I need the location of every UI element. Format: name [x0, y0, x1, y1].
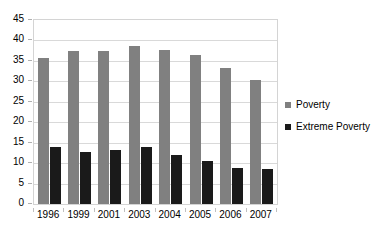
- bar-poverty-2005: [190, 55, 201, 204]
- y-tick-mark: [28, 39, 32, 40]
- y-tick-mark: [28, 101, 32, 102]
- y-tick-label: 45: [13, 14, 24, 24]
- x-tick-mark: [33, 208, 34, 212]
- y-tick-label: 25: [13, 96, 24, 106]
- y-tick-label: 15: [13, 137, 24, 147]
- y-tick-label: 0: [18, 198, 24, 208]
- plot-area: [33, 19, 278, 205]
- x-tick-mark: [185, 208, 186, 212]
- x-tick-mark: [63, 208, 64, 212]
- legend-swatch-icon: [285, 124, 291, 130]
- y-tick-mark: [28, 183, 32, 184]
- legend-swatch-icon: [285, 102, 291, 108]
- bar-extreme-poverty-2006: [232, 168, 243, 204]
- bar-poverty-1996: [38, 58, 49, 204]
- x-tick-label: 2005: [189, 210, 211, 220]
- x-tick-label: 1999: [67, 210, 89, 220]
- x-tick-mark: [124, 208, 125, 212]
- x-tick-label: 2003: [128, 210, 150, 220]
- x-tick-label: 2001: [98, 210, 120, 220]
- y-axis: 051015202530354045: [0, 19, 29, 205]
- x-tick-label: 2007: [250, 210, 272, 220]
- y-tick-label: 10: [13, 157, 24, 167]
- bar-extreme-poverty-1996: [50, 147, 61, 204]
- y-tick-label: 35: [13, 55, 24, 65]
- x-tick-mark: [246, 208, 247, 212]
- x-tick-mark: [94, 208, 95, 212]
- y-tick-mark: [28, 142, 32, 143]
- bar-poverty-2004: [159, 50, 170, 204]
- legend-label: Poverty: [296, 100, 330, 110]
- y-tick-label: 20: [13, 116, 24, 126]
- x-tick-label: 2004: [159, 210, 181, 220]
- legend-item-extreme-poverty[interactable]: Extreme Poverty: [285, 122, 373, 132]
- bar-poverty-2001: [98, 51, 109, 204]
- y-tick-label: 40: [13, 34, 24, 44]
- y-tick-mark: [28, 80, 32, 81]
- bar-poverty-2007: [250, 80, 261, 204]
- bar-chart: 051015202530354045 199619992001200320042…: [0, 0, 373, 236]
- bar-extreme-poverty-2003: [141, 147, 152, 204]
- y-tick-mark: [28, 203, 32, 204]
- x-tick-mark: [155, 208, 156, 212]
- bar-poverty-1999: [68, 51, 79, 204]
- y-tick-mark: [28, 60, 32, 61]
- x-tick-label: 2006: [219, 210, 241, 220]
- y-tick-mark: [28, 121, 32, 122]
- x-tick-mark: [276, 208, 277, 212]
- x-axis: 19961999200120032004200520062007: [33, 208, 278, 228]
- bar-extreme-poverty-2001: [110, 150, 121, 204]
- legend-item-poverty[interactable]: Poverty: [285, 100, 373, 110]
- bar-poverty-2006: [220, 68, 231, 204]
- gridline: [34, 40, 277, 41]
- bar-extreme-poverty-1999: [80, 152, 91, 204]
- y-tick-label: 5: [18, 178, 24, 188]
- bar-extreme-poverty-2004: [171, 155, 182, 204]
- bar-extreme-poverty-2005: [202, 161, 213, 204]
- y-tick-label: 30: [13, 75, 24, 85]
- x-tick-label: 1996: [37, 210, 59, 220]
- legend-label: Extreme Poverty: [296, 122, 370, 132]
- bar-poverty-2003: [129, 46, 140, 204]
- y-tick-mark: [28, 19, 32, 20]
- x-tick-mark: [215, 208, 216, 212]
- chart-legend: PovertyExtreme Poverty: [285, 100, 373, 144]
- y-tick-mark: [28, 162, 32, 163]
- bar-extreme-poverty-2007: [262, 169, 273, 204]
